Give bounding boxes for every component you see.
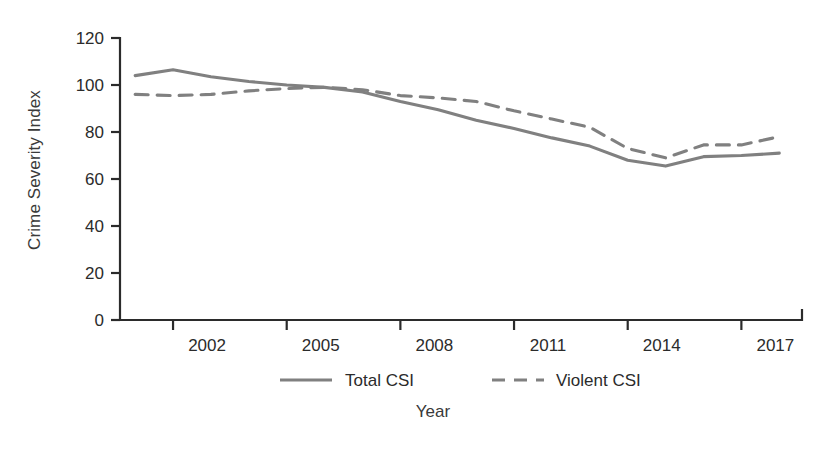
y-axis-tick-label: 60 bbox=[85, 170, 104, 189]
chart-legend: Total CSIViolent CSI bbox=[280, 371, 641, 390]
series-group bbox=[135, 70, 779, 166]
y-axis-tick-label: 20 bbox=[85, 264, 104, 283]
y-axis-tick-label: 100 bbox=[76, 76, 104, 95]
y-axis-tick-label: 80 bbox=[85, 123, 104, 142]
x-axis-tick-label: 2017 bbox=[756, 336, 794, 355]
chart-figure: Crime Severity Index Year 02040608010012… bbox=[0, 0, 838, 449]
y-axis-tick-label: 0 bbox=[95, 311, 104, 330]
series-line-violent-csi bbox=[135, 87, 779, 158]
x-axis-tick-label: 2011 bbox=[530, 336, 567, 355]
y-axis-tick-label: 120 bbox=[76, 29, 104, 48]
x-axis-tick-label: 2002 bbox=[188, 336, 226, 355]
line-chart-plot: 020406080100120 200220052008201120142017… bbox=[0, 0, 838, 449]
x-axis-tick-group: 200220052008201120142017 bbox=[173, 320, 794, 355]
y-axis-tick-label: 40 bbox=[85, 217, 104, 236]
y-axis-tick-group: 020406080100120 bbox=[76, 29, 120, 330]
x-axis-tick-label: 2014 bbox=[643, 336, 681, 355]
x-axis-tick-label: 2008 bbox=[415, 336, 453, 355]
x-axis-tick-label: 2005 bbox=[302, 336, 340, 355]
axis-frame bbox=[120, 38, 802, 320]
legend-label-total-csi: Total CSI bbox=[345, 371, 414, 390]
legend-label-violent-csi: Violent CSI bbox=[556, 371, 641, 390]
